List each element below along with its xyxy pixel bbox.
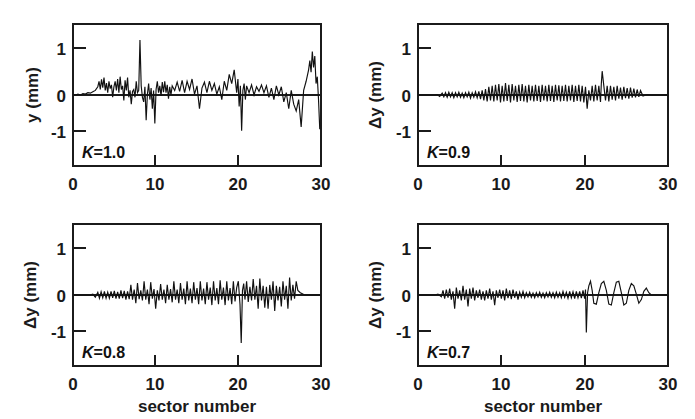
y-tick-label-0: 0 bbox=[57, 87, 66, 106]
x-tick-label-20: 20 bbox=[229, 375, 248, 394]
y-axis-title: y (mm) bbox=[23, 67, 42, 123]
data-trace-k-0-9 bbox=[418, 71, 668, 109]
x-tick-label-0: 0 bbox=[413, 175, 422, 194]
x-tick-label-30: 30 bbox=[312, 375, 331, 394]
k-value-label: K=1.0 bbox=[82, 144, 125, 161]
data-trace-k-1-0 bbox=[73, 40, 320, 131]
panel-k-0-9: 1 0 -1 0 10 20 30 Δy (mm) K=0.9 bbox=[347, 0, 695, 205]
panel-k-0-8-svg: 1 0 -1 0 10 20 30 Δy (mm) sector number … bbox=[0, 205, 347, 419]
data-trace-k-0-7 bbox=[418, 281, 668, 332]
y-tick-label-neg1: -1 bbox=[51, 323, 66, 342]
k-equals: = bbox=[94, 344, 103, 361]
x-tick-label-0: 0 bbox=[68, 175, 77, 194]
x-tick-label-20: 20 bbox=[229, 175, 248, 194]
panel-k-0-8: 1 0 -1 0 10 20 30 Δy (mm) sector number … bbox=[0, 205, 347, 419]
x-tick-label-30: 30 bbox=[312, 175, 331, 194]
y-tick-label-1: 1 bbox=[57, 240, 66, 259]
k-value-label: K=0.9 bbox=[427, 144, 470, 161]
data-trace-k-0-8 bbox=[73, 278, 321, 344]
y-axis-title: Δy (mm) bbox=[21, 261, 40, 329]
y-tick-label-1: 1 bbox=[57, 40, 66, 59]
x-tick-label-10: 10 bbox=[492, 375, 511, 394]
panel-k-1-0-svg: 1 0 -1 0 10 20 30 y (mm) K=1.0 bbox=[0, 0, 347, 205]
y-tick-label-neg1: -1 bbox=[51, 123, 66, 142]
y-ticks bbox=[73, 248, 86, 331]
x-tick-label-0: 0 bbox=[68, 375, 77, 394]
x-tick-label-30: 30 bbox=[659, 175, 678, 194]
k-number: 1.0 bbox=[103, 144, 125, 161]
y-axis-title: Δy (mm) bbox=[366, 61, 385, 129]
y-tick-label-0: 0 bbox=[402, 287, 411, 306]
y-ticks bbox=[418, 48, 431, 131]
panel-k-0-9-svg: 1 0 -1 0 10 20 30 Δy (mm) K=0.9 bbox=[347, 0, 695, 205]
x-tick-label-10: 10 bbox=[492, 175, 511, 194]
panel-k-0-7: 1 0 -1 0 10 20 30 Δy (mm) sector number … bbox=[347, 205, 695, 419]
x-tick-label-10: 10 bbox=[146, 175, 165, 194]
x-axis-title: sector number bbox=[138, 397, 256, 416]
y-ticks bbox=[418, 248, 431, 331]
x-tick-label-0: 0 bbox=[413, 375, 422, 394]
x-tick-label-20: 20 bbox=[576, 175, 595, 194]
y-ticks bbox=[73, 48, 86, 131]
x-tick-label-20: 20 bbox=[576, 375, 595, 394]
panel-k-1-0: 1 0 -1 0 10 20 30 y (mm) K=1.0 bbox=[0, 0, 347, 205]
x-axis-title: sector number bbox=[484, 397, 602, 416]
panel-k-0-7-svg: 1 0 -1 0 10 20 30 Δy (mm) sector number … bbox=[347, 205, 695, 419]
k-value-label: K=0.8 bbox=[82, 344, 125, 361]
x-tick-label-30: 30 bbox=[659, 375, 678, 394]
k-number: 0.7 bbox=[448, 344, 470, 361]
k-value-label: K=0.7 bbox=[427, 344, 470, 361]
y-axis-title: Δy (mm) bbox=[366, 261, 385, 329]
y-tick-label-1: 1 bbox=[402, 240, 411, 259]
x-tick-label-10: 10 bbox=[146, 375, 165, 394]
y-tick-label-neg1: -1 bbox=[396, 123, 411, 142]
k-number: 0.9 bbox=[448, 144, 470, 161]
k-equals: = bbox=[94, 144, 103, 161]
y-tick-label-neg1: -1 bbox=[396, 323, 411, 342]
k-equals: = bbox=[439, 344, 448, 361]
figure-root: 1 0 -1 0 10 20 30 y (mm) K=1.0 bbox=[0, 0, 695, 419]
k-equals: = bbox=[439, 144, 448, 161]
y-tick-label-0: 0 bbox=[402, 87, 411, 106]
y-tick-label-0: 0 bbox=[57, 287, 66, 306]
k-number: 0.8 bbox=[103, 344, 125, 361]
y-tick-label-1: 1 bbox=[402, 40, 411, 59]
